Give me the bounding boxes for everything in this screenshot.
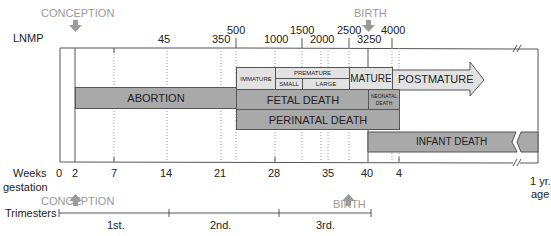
mature-bar: MATURE (349, 67, 393, 90)
trimester-3rd: 3rd. (316, 219, 335, 231)
one-year-label: 1 yr. (530, 175, 551, 187)
week-tick-2: 2 (72, 167, 78, 179)
week-tick-28: 28 (268, 167, 280, 179)
conception-arrow-down-icon (69, 20, 82, 32)
conception-bottom-label: CONCEPTION (41, 195, 114, 207)
infant-death-label: INFANT DEATH (416, 136, 487, 147)
birth-top-label: BIRTH (354, 7, 387, 19)
perinatal-death-bar: PERINATAL DEATH (236, 109, 400, 130)
immature-bar: IMMATURE (236, 67, 276, 90)
postmature-label: POSTMATURE (398, 73, 474, 85)
lnmp-tick-45: 45 (158, 33, 170, 45)
trimester-2nd: 2nd. (210, 219, 231, 231)
weeks-axis-label-1: Weeks (13, 167, 46, 179)
postnatal-week-tick-4: 4 (396, 167, 402, 179)
neonatal-death-label-1: NEONATAL (371, 93, 397, 100)
birth-bottom-label: BIRTH (333, 198, 366, 210)
lnmp-tick-3250: 3250 (357, 33, 381, 45)
week-tick-21: 21 (214, 167, 226, 179)
weeks-axis-label-2: gestation (3, 181, 48, 193)
lnmp-tick-500: 500 (227, 24, 245, 36)
week-tick-40: 40 (361, 167, 373, 179)
week-tick-35: 35 (322, 167, 334, 179)
week-tick-7: 7 (111, 167, 117, 179)
lnmp-axis-label: LNMP (13, 32, 44, 44)
lnmp-tick-1000: 1000 (264, 33, 288, 45)
fetal-death-bar: FETAL DEATH (236, 89, 370, 110)
lnmp-tick-4000: 4000 (381, 24, 405, 36)
week-tick-14: 14 (160, 167, 172, 179)
trimester-1st: 1st. (107, 219, 125, 231)
week-tick-0: 0 (56, 167, 62, 179)
neonatal-death-bar: NEONATAL DEATH (368, 89, 400, 110)
birth-arrow-down-icon (362, 20, 375, 32)
lnmp-tick-2000: 2000 (310, 33, 334, 45)
abortion-bar: ABORTION (75, 87, 237, 109)
age-label: age (531, 188, 549, 200)
neonatal-death-label-2: DEATH (376, 100, 393, 107)
trimesters-label: Trimesters (5, 207, 57, 219)
